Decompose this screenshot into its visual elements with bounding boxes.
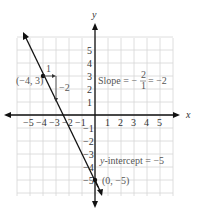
- y-tick-label: 1: [87, 97, 92, 108]
- rise-label: −2: [59, 82, 70, 93]
- svg-text:= −2: = −2: [148, 75, 167, 86]
- point-a-label: (−4, 3): [16, 75, 43, 87]
- x-tick-label: 4: [144, 117, 149, 128]
- coordinate-plane: x y −5−4−3−2−112345 54321−1−2−3−4−5 1 −2…: [0, 0, 207, 217]
- y-tick-label: 5: [87, 45, 92, 56]
- x-tick-label: 1: [105, 117, 110, 128]
- x-axis-label: x: [185, 109, 191, 120]
- line-series: [23, 32, 103, 196]
- y-axis-label: y: [91, 9, 97, 20]
- svg-text:1: 1: [141, 80, 146, 91]
- svg-text:Slope = −: Slope = −: [98, 75, 137, 86]
- intercept-annotation: y-intercept = −5: [99, 155, 164, 166]
- svg-text:2: 2: [141, 69, 146, 80]
- y-tick-label: 2: [87, 84, 92, 95]
- y-tick-label: −1: [83, 123, 94, 134]
- x-tick-label: −5: [23, 117, 34, 128]
- y-tick-label: 4: [87, 58, 92, 69]
- y-tick-label: 3: [87, 71, 92, 82]
- point-b-label: (0, −5): [102, 175, 129, 187]
- point-b-marker: [93, 178, 97, 182]
- run-label: 1: [46, 63, 51, 74]
- y-tick-label: −2: [83, 136, 94, 147]
- x-tick-label: −3: [49, 117, 60, 128]
- x-tick-label: 5: [157, 117, 162, 128]
- x-tick-label: −4: [36, 117, 47, 128]
- y-tick-label: −5: [83, 175, 94, 186]
- x-tick-label: 3: [131, 117, 136, 128]
- x-tick-label: 2: [118, 117, 123, 128]
- svg-text:y-intercept = −5: y-intercept = −5: [99, 155, 164, 166]
